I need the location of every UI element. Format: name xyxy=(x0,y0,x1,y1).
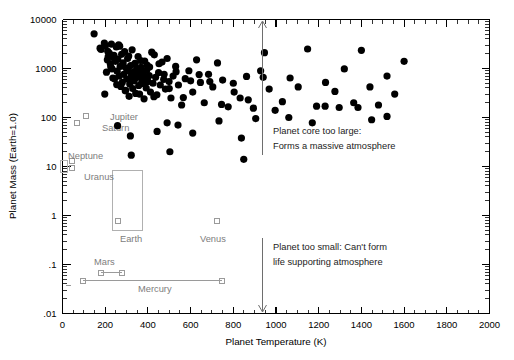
data-point xyxy=(107,63,114,70)
data-point xyxy=(140,95,147,102)
data-point xyxy=(189,130,196,137)
data-point xyxy=(201,99,208,106)
data-point xyxy=(161,71,168,78)
data-point xyxy=(313,103,320,110)
data-point xyxy=(185,67,192,74)
data-point xyxy=(237,94,244,101)
data-point xyxy=(245,96,252,103)
data-point xyxy=(383,72,390,79)
x-axis-title: Planet Temperature (K) xyxy=(225,336,326,347)
data-point xyxy=(272,107,279,114)
data-point xyxy=(368,116,375,123)
data-point xyxy=(137,57,144,64)
label-uranus: Uranus xyxy=(84,172,114,182)
x-tick-label: 1600 xyxy=(394,319,415,330)
chart-svg: 0200400600800100012001400160018002000.01… xyxy=(0,0,514,360)
data-point xyxy=(250,105,257,112)
data-point xyxy=(286,74,293,81)
x-tick-label: 1400 xyxy=(351,319,372,330)
label-jupiter: Jupiter xyxy=(110,112,138,122)
y-axis-title: Planet Mass (Earth=1.0) xyxy=(7,113,18,219)
data-point xyxy=(172,68,179,75)
label-neptune: Neptune xyxy=(68,151,103,161)
data-point xyxy=(243,73,250,80)
data-point xyxy=(261,49,268,56)
data-point xyxy=(104,48,111,55)
data-point xyxy=(151,51,158,58)
data-point xyxy=(366,83,373,90)
x-tick-label: 400 xyxy=(140,319,156,330)
data-point xyxy=(218,101,225,108)
x-tick-label: 1800 xyxy=(436,319,457,330)
data-point xyxy=(128,152,135,159)
data-point xyxy=(225,103,232,110)
data-point xyxy=(230,80,237,87)
data-point xyxy=(125,52,132,59)
data-point xyxy=(341,65,348,72)
annotation-core-line-2: Forms a massive atmosphere xyxy=(273,141,395,151)
data-point xyxy=(146,63,153,70)
data-point xyxy=(260,74,267,81)
data-point xyxy=(205,71,212,78)
data-point xyxy=(127,132,134,139)
data-point xyxy=(150,93,157,100)
data-point xyxy=(119,62,126,69)
data-point xyxy=(266,85,273,92)
data-point xyxy=(153,128,160,135)
data-point xyxy=(174,121,181,128)
data-point xyxy=(116,43,123,50)
data-point xyxy=(358,47,365,54)
data-point xyxy=(155,60,162,67)
data-point xyxy=(164,119,171,126)
label-earth: Earth xyxy=(120,234,142,244)
data-point xyxy=(113,81,120,88)
annotation-core-line-1: Planet core too large: xyxy=(273,126,361,136)
data-point xyxy=(180,94,187,101)
label-mercury: Mercury xyxy=(138,284,172,294)
exoplanet-mass-temperature-chart: 0200400600800100012001400160018002000.01… xyxy=(0,0,514,360)
y-tick-label: 1 xyxy=(51,210,56,221)
data-point xyxy=(196,71,203,78)
data-point xyxy=(238,134,245,141)
data-point xyxy=(134,71,141,78)
x-tick-label: 2000 xyxy=(479,319,500,330)
data-point xyxy=(375,101,382,108)
data-point xyxy=(304,45,311,52)
x-tick-label: 0 xyxy=(60,319,65,330)
data-point xyxy=(91,30,98,37)
y-tick-label: 1000 xyxy=(35,63,56,74)
data-point xyxy=(231,88,238,95)
y-tick-label: 100 xyxy=(41,112,57,123)
data-point xyxy=(197,79,204,86)
data-point xyxy=(122,87,129,94)
annotation-small-line-2: life supporting atmosphere xyxy=(273,257,383,267)
data-point xyxy=(383,113,390,120)
annotation-small-line-1: Planet too small: Can't form xyxy=(273,242,387,252)
data-point xyxy=(285,114,292,121)
data-point xyxy=(354,104,361,111)
data-point xyxy=(129,46,136,53)
chart-background xyxy=(0,0,514,360)
data-point xyxy=(214,59,221,66)
data-point xyxy=(110,54,117,61)
x-tick-label: 800 xyxy=(225,319,241,330)
data-point xyxy=(240,156,247,163)
y-tick-label: .01 xyxy=(43,308,56,319)
data-point xyxy=(322,103,329,110)
data-point xyxy=(114,122,121,129)
data-point xyxy=(187,77,194,84)
data-point xyxy=(167,94,174,101)
data-point xyxy=(189,88,196,95)
data-point xyxy=(252,115,259,122)
data-point xyxy=(391,91,398,98)
data-point xyxy=(322,79,329,86)
data-point xyxy=(101,91,108,98)
x-tick-label: 1200 xyxy=(308,319,329,330)
data-point xyxy=(193,56,200,63)
data-point xyxy=(219,76,226,83)
y-tick-label: .1 xyxy=(49,259,57,270)
data-point xyxy=(166,85,173,92)
data-point xyxy=(336,104,343,111)
label-mars: Mars xyxy=(94,257,115,267)
data-point xyxy=(279,98,286,105)
